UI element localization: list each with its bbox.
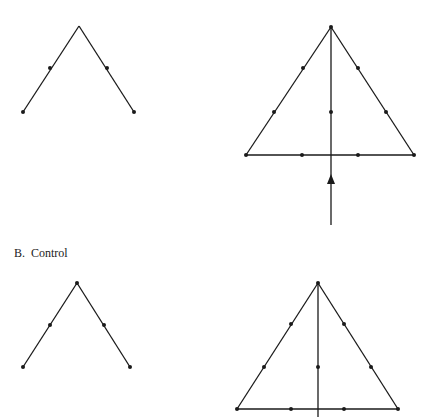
vertex-dot — [262, 365, 266, 369]
vertex-dot — [21, 110, 25, 114]
vertex-dot — [342, 407, 346, 411]
panel-a-triangle — [244, 25, 416, 225]
vertex-dot — [272, 110, 276, 114]
vertex-dot — [412, 153, 416, 157]
vertex-dot — [300, 153, 304, 157]
arrow-up-icon — [327, 174, 335, 184]
vertex-dot — [316, 365, 320, 369]
vertex-dot — [235, 407, 239, 411]
vertex-dot — [21, 365, 25, 369]
shapes-layer — [21, 25, 416, 417]
vertex-dot — [316, 281, 320, 285]
vertex-dot — [329, 110, 333, 114]
vertex-dot — [289, 322, 293, 326]
vertex-dot — [356, 66, 360, 70]
vertex-dot — [384, 110, 388, 114]
line-segment — [331, 27, 414, 155]
line-segment — [237, 283, 318, 409]
vertex-dot — [342, 322, 346, 326]
vertex-dot — [105, 66, 109, 70]
vertex-dot — [128, 365, 132, 369]
vertex-dot — [102, 323, 106, 327]
diagram-figure — [0, 0, 422, 417]
vertex-dot — [301, 66, 305, 70]
line-segment — [318, 283, 398, 409]
vertex-dot — [48, 323, 52, 327]
panel-b-chevron — [21, 281, 132, 369]
vertex-dot — [132, 110, 136, 114]
panel-a-chevron — [21, 26, 136, 114]
vertex-dot — [369, 365, 373, 369]
vertex-dot — [244, 153, 248, 157]
line-segment — [246, 27, 331, 155]
vertex-dot — [48, 66, 52, 70]
vertex-dot — [329, 25, 333, 29]
vertex-dot — [356, 153, 360, 157]
vertex-dot — [396, 407, 400, 411]
vertex-dot — [75, 281, 79, 285]
vertex-dot — [289, 407, 293, 411]
panel-b-label: B. Control — [14, 246, 68, 261]
panel-b-triangle — [235, 281, 400, 417]
